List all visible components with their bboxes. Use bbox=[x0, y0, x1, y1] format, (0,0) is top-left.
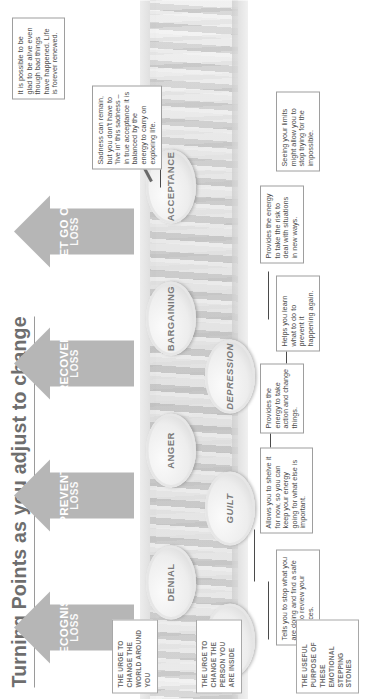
arrow-prevent-loss: PREVENTLOSS bbox=[14, 459, 134, 531]
legend-urge-change-world: THE URGE TO CHANGE THE WORLD AROUND YOU bbox=[112, 619, 158, 693]
arrow-head-icon bbox=[14, 591, 50, 663]
legend-useful-purpose: THE USEFUL PURPOSE OF THESE EMOTIONAL ST… bbox=[296, 619, 359, 693]
callout-denial: Allows you to shelve it for now, so you … bbox=[260, 447, 313, 533]
callout-depression: Seeing your limits might allow you to st… bbox=[276, 91, 320, 171]
arrow-head-icon bbox=[14, 459, 50, 531]
arrow-head-icon bbox=[14, 195, 50, 267]
arrow-head-icon bbox=[14, 327, 50, 399]
leader-line-shock bbox=[268, 581, 269, 639]
stone-denial: DENIAL bbox=[146, 545, 196, 619]
stone-anger: ANGER bbox=[146, 413, 196, 487]
leader-line-bargaining bbox=[268, 271, 269, 319]
leader-line-denial bbox=[254, 529, 255, 581]
callout-anger: Provides the energy to take action and c… bbox=[260, 363, 304, 433]
arrow-recover-loss: RECOVERLOSS bbox=[14, 327, 134, 399]
callout-acceptance: Sadness can remain, but you don't have t… bbox=[92, 85, 162, 169]
arrow-let-go-of-loss: LET GO OFLOSS bbox=[14, 195, 134, 267]
stone-guilt: GUILT bbox=[205, 471, 255, 545]
callout-acceptance-renewal: It is possible to be glad to be alive ev… bbox=[12, 17, 65, 99]
arrow-label: RECOVERLOSS bbox=[58, 328, 81, 398]
infographic-canvas: Turning Points as you adjust to change R… bbox=[0, 0, 392, 699]
arrow-label: LET GO OFLOSS bbox=[58, 196, 81, 266]
callout-guilt: Helps you learn what to do to prevent it… bbox=[276, 275, 320, 351]
arrow-label: RECOGNISELOSS bbox=[58, 592, 81, 662]
stone-bargaining: BARGAINING bbox=[146, 281, 196, 355]
callout-bargaining: Provides the energy to take the risk to … bbox=[260, 185, 304, 263]
arrow-label: PREVENTLOSS bbox=[58, 460, 81, 530]
legend-urge-change-person: THE URGE TO CHANGE THE PERSON YOU ARE IN… bbox=[196, 619, 242, 693]
stone-depression: DEPRESSION bbox=[205, 339, 255, 413]
